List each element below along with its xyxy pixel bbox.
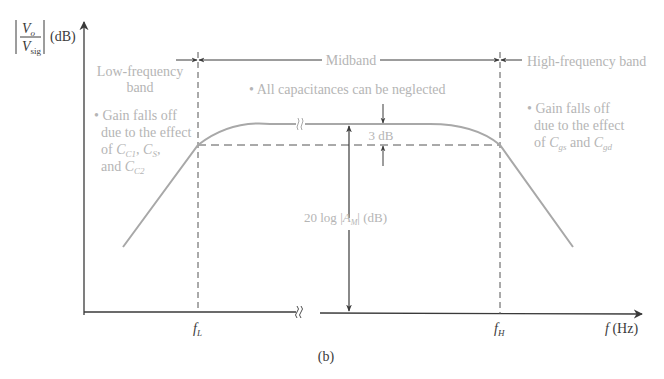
svg-text:• Gain falls off: • Gain falls off	[94, 108, 177, 123]
x-axis	[84, 306, 642, 318]
figure-caption: (b)	[318, 349, 335, 365]
high-band-note: • Gain falls off due to the effect of Cg…	[527, 101, 624, 152]
svg-text:and CC2: and CC2	[101, 159, 145, 176]
frequency-response-diagram: Vo Vsig (dB) Midband Low-frequency band …	[0, 0, 664, 379]
low-band-label-line2: band	[126, 80, 153, 95]
svg-text:due to the effect: due to the effect	[101, 125, 191, 140]
svg-text:due to the effect: due to the effect	[534, 118, 624, 133]
curve-break-icon	[297, 118, 303, 130]
three-db-label: 3 dB	[369, 128, 394, 143]
midband-label: Midband	[326, 53, 377, 68]
x-axis-label: f (Hz)	[605, 321, 638, 337]
high-band-label: High-frequency band	[527, 54, 646, 69]
axis-break-icon	[296, 306, 303, 318]
fL-label: fL	[193, 321, 202, 338]
svg-text:Vsig: Vsig	[22, 39, 42, 56]
low-band-label-line1: Low-frequency	[97, 64, 183, 79]
y-axis-label: Vo Vsig (dB)	[16, 20, 76, 56]
svg-text:(dB): (dB)	[50, 29, 76, 45]
svg-text:• Gain falls off: • Gain falls off	[527, 101, 610, 116]
midband-gain-label: 20 log |AM| (dB)	[304, 210, 387, 227]
svg-text:Vo: Vo	[22, 21, 36, 38]
low-band-note: • Gain falls off due to the effect of CC…	[94, 108, 191, 176]
svg-text:of Cgs and Cgd: of Cgs and Cgd	[534, 135, 613, 152]
midband-note: • All capacitances can be neglected	[249, 82, 446, 97]
svg-text:of CC1, CS,: of CC1, CS,	[101, 142, 160, 159]
fH-label: fH	[494, 321, 505, 338]
